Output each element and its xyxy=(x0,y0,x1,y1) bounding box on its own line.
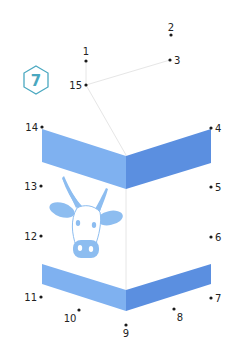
dot-1: 1 xyxy=(83,46,89,63)
dot-marker xyxy=(84,59,87,62)
dot-marker xyxy=(169,33,172,36)
dot-marker xyxy=(172,307,175,310)
dot-marker xyxy=(209,296,212,299)
cow-head-icon xyxy=(47,176,124,258)
dot-label: 7 xyxy=(215,293,221,304)
dot-marker xyxy=(39,234,42,237)
dot-label: 13 xyxy=(24,181,37,192)
dot-marker xyxy=(77,308,80,311)
dot-label: 12 xyxy=(24,231,37,242)
dot-label: 11 xyxy=(24,292,37,303)
dot-marker xyxy=(209,185,212,188)
dot-marker xyxy=(39,184,42,187)
carton-top-band xyxy=(42,129,211,189)
dot-marker xyxy=(168,58,171,61)
dot-marker xyxy=(209,235,212,238)
dot-13: 13 xyxy=(24,181,42,192)
dot-6: 6 xyxy=(209,232,221,243)
puzzle-number-badge: 7 xyxy=(24,66,48,94)
dot-10: 10 xyxy=(64,308,81,324)
dot-9: 9 xyxy=(123,323,129,339)
badge-number: 7 xyxy=(31,72,41,90)
dot-label: 4 xyxy=(215,123,221,134)
dot-label: 2 xyxy=(168,22,174,33)
dot-11: 11 xyxy=(24,292,42,303)
dot-12: 12 xyxy=(24,231,42,242)
connect-the-dots-puzzle: 7 123456789101112131415 xyxy=(0,0,241,363)
dot-label: 6 xyxy=(215,232,221,243)
dot-marker xyxy=(124,323,127,326)
dot-label: 10 xyxy=(64,313,77,324)
dot-marker xyxy=(39,295,42,298)
dot-label: 1 xyxy=(83,46,89,57)
dot-label: 3 xyxy=(174,55,180,66)
dot-marker xyxy=(84,83,87,86)
dot-7: 7 xyxy=(209,293,221,304)
dot-label: 8 xyxy=(177,312,183,323)
dot-label: 14 xyxy=(25,122,38,133)
dot-3: 3 xyxy=(168,55,180,66)
dot-label: 9 xyxy=(123,328,129,339)
dot-8: 8 xyxy=(172,307,183,323)
dot-4: 4 xyxy=(209,123,221,134)
dot-14: 14 xyxy=(25,122,43,133)
dot-marker xyxy=(209,126,212,129)
dot-marker xyxy=(40,125,43,128)
dot-label: 5 xyxy=(215,182,221,193)
dot-label: 15 xyxy=(69,80,82,91)
dot-2: 2 xyxy=(168,22,174,37)
dot-15: 15 xyxy=(69,80,87,91)
dot-5: 5 xyxy=(209,182,221,193)
